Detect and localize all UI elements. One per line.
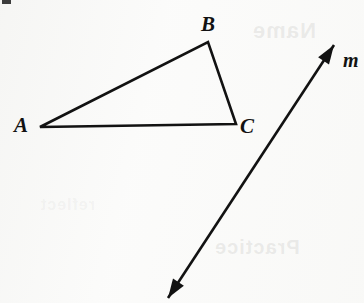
line-m-shaft — [168, 45, 334, 298]
line-label-m: m — [343, 50, 359, 70]
vertex-label-c: C — [240, 116, 254, 137]
vertex-label-b: B — [201, 14, 215, 35]
geometry-canvas — [0, 0, 364, 303]
vertex-label-a: A — [14, 115, 28, 136]
triangle-abc-shape — [40, 42, 236, 127]
line-m-arrowhead-top-icon — [318, 45, 334, 64]
line-m-arrowhead-bottom-icon — [168, 279, 184, 298]
geometry-figure: Name Practice reflect A B C m — [0, 0, 364, 303]
